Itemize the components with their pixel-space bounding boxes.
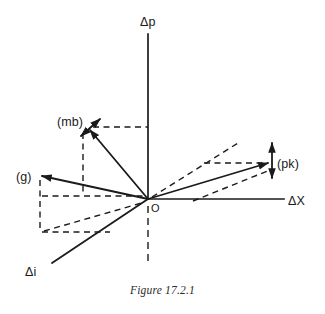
axis-group — [52, 34, 284, 263]
delta-p-axis-label: Δp — [140, 15, 156, 29]
pk-upper-diagonal-line — [152, 143, 238, 197]
figure-caption: Figure 17.2.1 — [0, 284, 325, 296]
delta-i-axis — [52, 199, 148, 263]
vector-pk-label: (pk) — [277, 157, 299, 171]
delta-i-axis-label: Δi — [25, 265, 36, 279]
figure-container: Δp ΔX Δi (mb) (g) (pk) O Figure 17.2.1 — [0, 0, 325, 314]
vector-mb-label: (mb) — [57, 115, 83, 129]
vector-diagram: Δp ΔX Δi (mb) (g) (pk) O — [0, 0, 325, 314]
label-group: Δp ΔX Δi (mb) (g) (pk) O — [16, 15, 305, 279]
measure-arrow-group — [81, 119, 272, 178]
origin-label: O — [151, 202, 160, 214]
vector-g-label: (g) — [16, 170, 32, 184]
construction-lines-group — [40, 127, 270, 232]
delta-x-axis-label: ΔX — [288, 194, 305, 208]
vector-group — [42, 130, 268, 199]
g-base-diagonal-line — [44, 202, 145, 231]
vector-pk — [148, 163, 268, 199]
